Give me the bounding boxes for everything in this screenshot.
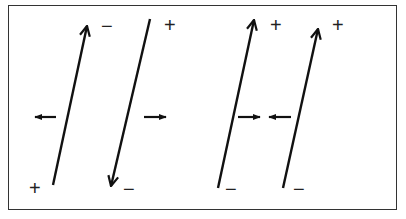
segment-1-bottom-label: +	[29, 177, 41, 199]
segment-4-top-label: +	[332, 14, 344, 36]
arrow-up-icon	[53, 26, 87, 185]
arrow-up-icon	[283, 29, 318, 188]
segment-3-top-label: +	[270, 14, 282, 36]
segment-3: + −	[218, 14, 282, 200]
segment-2: + −	[111, 14, 176, 200]
segment-1-top-label: −	[101, 15, 113, 37]
segment-2-bottom-label: −	[123, 178, 135, 200]
arrow-down-icon	[111, 19, 150, 186]
arrow-up-icon	[218, 20, 254, 188]
segment-4-bottom-label: −	[293, 178, 305, 200]
segment-4: + −	[283, 14, 344, 200]
segment-2-top-label: +	[164, 14, 176, 36]
diagram-canvas: + − + − + − + −	[0, 0, 406, 219]
segment-1: + −	[29, 15, 113, 199]
segment-3-bottom-label: −	[225, 178, 237, 200]
